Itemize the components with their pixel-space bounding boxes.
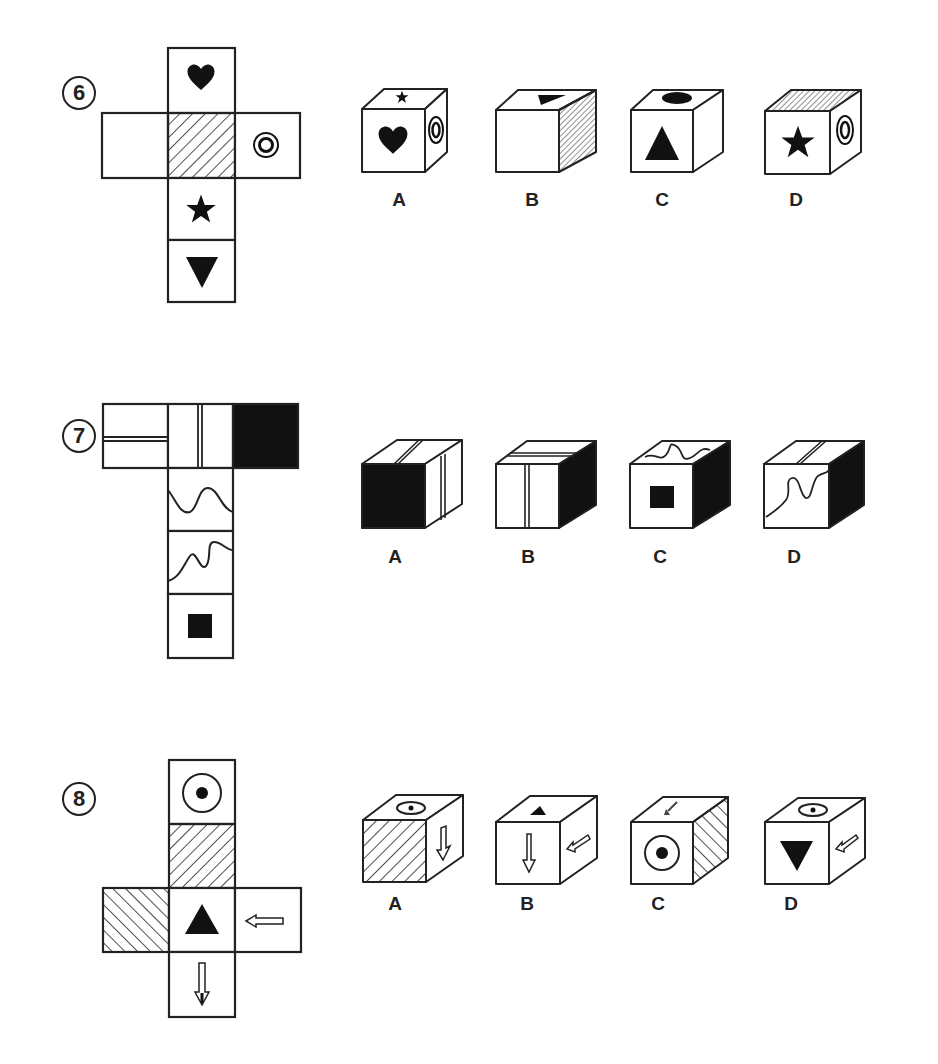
q8-option-label-a: A	[380, 893, 410, 915]
q8-option-label-c: C	[643, 893, 673, 915]
q8-option-label-b: B	[512, 893, 542, 915]
q8-option-label-d: D	[776, 893, 806, 915]
